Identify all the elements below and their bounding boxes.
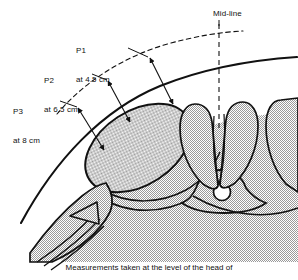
label-p1-name: P1: [76, 46, 110, 56]
label-midline: Mid-line: [213, 9, 242, 19]
figure-caption: Measurements taken at the level of the h…: [0, 263, 298, 272]
label-p1: P1 at 4.5 cm: [76, 27, 110, 103]
label-p2-depth: at 6.5 cm: [44, 105, 78, 115]
measurement-arrow-p1: [150, 58, 173, 104]
label-p3: P3 at 8 cm: [13, 88, 40, 164]
anatomy-diagram: [0, 0, 298, 280]
label-p2: P2 at 6.5 cm: [44, 57, 78, 133]
label-p3-depth: at 8 cm: [13, 136, 40, 146]
leader-line-p1: [128, 48, 148, 57]
label-p1-depth: at 4.5 cm: [76, 75, 110, 85]
label-p2-name: P2: [44, 76, 78, 86]
anatomical-figure: P1 at 4.5 cm P2 at 6.5 cm P3 at 8 cm Mid…: [0, 0, 298, 280]
label-p3-name: P3: [13, 107, 40, 117]
